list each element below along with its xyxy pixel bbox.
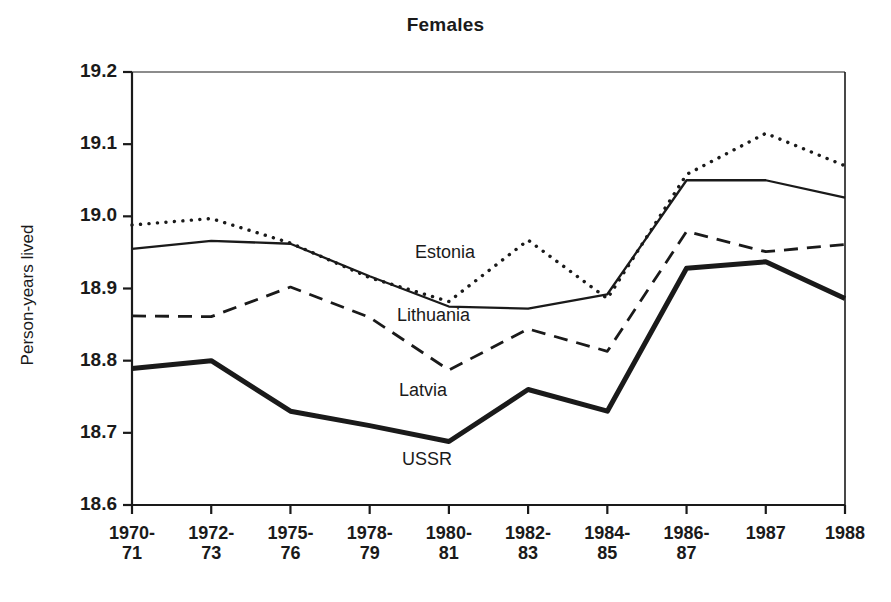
x-tick-line-2: 81	[405, 543, 493, 563]
y-axis-tick-label: 18.8	[43, 350, 117, 369]
x-tick-line-1: 1970-	[88, 523, 176, 543]
x-tick-line-1: 1975-	[246, 523, 334, 543]
y-axis-tick-label: 19.2	[43, 61, 117, 80]
x-tick-line-1: 1982-	[484, 523, 572, 543]
x-tick-line-1: 1987	[722, 523, 810, 543]
x-tick-line-2: 73	[167, 543, 255, 563]
x-tick-line-2: 83	[484, 543, 572, 563]
y-axis-tick-label: 18.7	[43, 422, 117, 441]
chart-figure: Females Person-years lived 19.219.119.01…	[0, 0, 891, 602]
y-axis-tick-label: 18.9	[43, 278, 117, 297]
series-group	[132, 133, 845, 441]
x-axis-tick-label: 1975-76	[246, 523, 334, 563]
series-line-latvia	[132, 231, 845, 370]
y-axis-tick-label: 18.6	[43, 494, 117, 513]
x-axis-tick-label: 1987	[722, 523, 810, 543]
series-line-ussr	[132, 262, 845, 442]
x-tick-line-1: 1986-	[643, 523, 731, 543]
series-line-lithuania	[132, 180, 845, 308]
x-tick-line-2: 76	[246, 543, 334, 563]
x-tick-line-1: 1988	[801, 523, 889, 543]
page-title: Females	[0, 14, 891, 36]
series-label-lithuania: Lithuania	[397, 306, 470, 324]
x-axis-tick-label: 1982-83	[484, 523, 572, 563]
x-tick-line-2: 87	[643, 543, 731, 563]
x-axis-tick-label: 1986-87	[643, 523, 731, 563]
y-axis-tick-label: 19.0	[43, 205, 117, 224]
x-axis-tick-label: 1984-85	[563, 523, 651, 563]
x-tick-line-1: 1972-	[167, 523, 255, 543]
x-axis-tick-label: 1978-79	[326, 523, 414, 563]
series-label-estonia: Estonia	[415, 243, 475, 261]
x-tick-line-2: 79	[326, 543, 414, 563]
x-tick-line-1: 1978-	[326, 523, 414, 543]
x-tick-line-2: 85	[563, 543, 651, 563]
y-axis-tick-label: 19.1	[43, 133, 117, 152]
axis-group	[123, 72, 845, 514]
x-tick-line-1: 1980-	[405, 523, 493, 543]
x-axis-tick-label: 1972-73	[167, 523, 255, 563]
x-axis-tick-label: 1970-71	[88, 523, 176, 563]
x-axis-tick-label: 1988	[801, 523, 889, 543]
series-line-estonia	[132, 133, 845, 301]
y-axis-label: Person-years lived	[18, 175, 38, 415]
plot-canvas	[0, 0, 891, 602]
series-label-latvia: Latvia	[399, 381, 447, 399]
x-tick-line-1: 1984-	[563, 523, 651, 543]
x-axis-tick-label: 1980-81	[405, 523, 493, 563]
x-tick-line-2: 71	[88, 543, 176, 563]
series-label-ussr: USSR	[402, 450, 452, 468]
